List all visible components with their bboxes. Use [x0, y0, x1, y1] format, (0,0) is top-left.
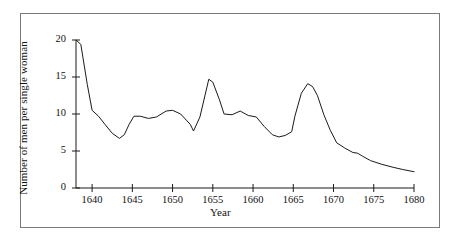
y-axis-label: Number of men per single woman	[17, 33, 29, 203]
x-axis-label: Year	[210, 206, 231, 218]
data-series-group	[76, 40, 414, 172]
y-tick-label: 0	[48, 181, 66, 192]
y-tick-label: 15	[48, 70, 66, 81]
y-tick-label: 10	[48, 107, 66, 118]
x-tick-label: 1665	[273, 194, 313, 205]
x-tick-label: 1645	[112, 194, 152, 205]
y-tick-label: 20	[48, 33, 66, 44]
x-tick-label: 1670	[314, 194, 354, 205]
x-tick-label: 1650	[153, 194, 193, 205]
x-tick-label: 1680	[394, 194, 434, 205]
data-series-line	[76, 40, 414, 172]
x-tick-label: 1655	[193, 194, 233, 205]
y-tick-label: 5	[48, 144, 66, 155]
x-tick-label: 1660	[233, 194, 273, 205]
x-tick-label: 1675	[354, 194, 394, 205]
chart-plot-area: Number of men per single woman Year 0510…	[0, 0, 459, 243]
x-tick-label: 1640	[72, 194, 112, 205]
